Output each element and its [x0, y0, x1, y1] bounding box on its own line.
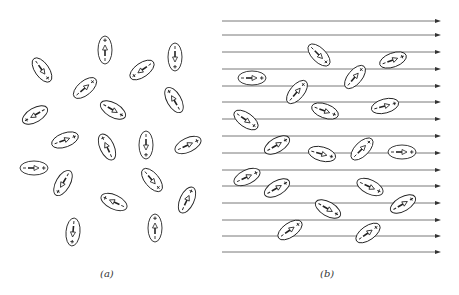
field-line: [222, 100, 441, 104]
field-arrowhead-icon: [435, 201, 441, 205]
panel-b-label: (b): [320, 268, 334, 279]
field-arrowhead-icon: [435, 168, 441, 172]
field-line: [222, 134, 441, 138]
field-arrowhead-icon: [435, 250, 441, 254]
dipole: [312, 196, 343, 222]
field-arrowhead-icon: [435, 184, 441, 188]
panel-a-dipoles: [19, 36, 203, 247]
dipole: [161, 84, 187, 115]
dipole: [307, 144, 338, 165]
panel-b-dipoles: [231, 40, 419, 247]
field-arrowhead-icon: [435, 234, 441, 238]
dipole: [139, 131, 153, 159]
dipole: [168, 43, 182, 71]
field-line: [222, 67, 441, 71]
electric-field-lines: [222, 19, 441, 254]
field-line: [222, 184, 441, 188]
dipole: [238, 71, 266, 85]
field-arrowhead-icon: [435, 117, 441, 121]
field-line: [222, 19, 441, 23]
dipole: [148, 214, 162, 242]
dipole: [283, 77, 312, 107]
dipole: [28, 55, 56, 86]
field-arrowhead-icon: [435, 134, 441, 138]
dipole: [354, 175, 385, 200]
dipole: [231, 106, 262, 134]
dipole: [388, 145, 416, 159]
dipole: [70, 74, 100, 103]
dipole: [127, 56, 158, 84]
dipole: [49, 129, 80, 152]
dipole: [138, 165, 167, 195]
field-line: [222, 50, 441, 54]
field-arrowhead-icon: [435, 218, 441, 222]
field-line: [222, 218, 441, 222]
dipole: [347, 134, 377, 164]
panel-a-label: (a): [100, 268, 114, 279]
dipole: [172, 133, 203, 158]
field-arrowhead-icon: [435, 84, 441, 88]
dipole: [19, 102, 50, 128]
field-arrowhead-icon: [435, 67, 441, 71]
dipole: [261, 175, 292, 201]
dipole: [98, 190, 129, 215]
field-line: [222, 234, 441, 238]
dipole: [20, 161, 48, 175]
dipole: [341, 62, 370, 92]
dipole: [95, 131, 120, 162]
field-arrowhead-icon: [435, 151, 441, 155]
field-line: [222, 33, 441, 37]
dipole: [370, 96, 401, 117]
dipole: [65, 217, 81, 246]
dipole: [98, 36, 112, 64]
field-arrowhead-icon: [435, 19, 441, 23]
dipole: [175, 184, 200, 215]
dipole: [50, 167, 76, 198]
field-arrowhead-icon: [435, 50, 441, 54]
dipole: [353, 219, 384, 247]
field-line: [222, 250, 441, 254]
dipole-diagram: [0, 0, 459, 295]
field-arrowhead-icon: [435, 33, 441, 37]
dipole: [304, 40, 334, 70]
dipole: [231, 165, 262, 190]
dipole: [387, 191, 418, 217]
dipole: [97, 97, 128, 123]
field-arrowhead-icon: [435, 100, 441, 104]
